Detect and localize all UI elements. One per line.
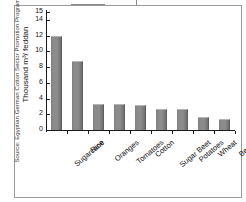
y-tick: 10	[46, 51, 50, 52]
y-tick: 2	[46, 114, 50, 115]
y-tick-mark	[46, 12, 50, 13]
y-tick: 4	[46, 99, 50, 100]
source-note: Source: Egyptian German Cotton Sector Pr…	[14, 13, 21, 163]
bar	[114, 104, 125, 130]
y-tick-label: 6	[39, 78, 43, 86]
y-tick: 0	[46, 130, 50, 131]
bar	[198, 117, 209, 130]
y-axis-title: Thousand m³/ feddan	[21, 17, 30, 113]
bar	[177, 109, 188, 130]
y-tick-mark	[46, 114, 50, 115]
y-tick: 6	[46, 83, 50, 84]
y-tick: 8	[46, 67, 50, 68]
x-tick	[109, 131, 110, 134]
y-tick-mark	[46, 36, 50, 37]
bar	[135, 105, 146, 130]
x-tick	[88, 131, 89, 134]
y-tick-mark	[46, 67, 50, 68]
x-tick	[130, 131, 131, 134]
y-tick-mark	[46, 83, 50, 84]
y-tick-label: 4	[39, 94, 43, 102]
y-tick: 12	[46, 36, 50, 37]
y-tick: 14	[46, 20, 50, 21]
chart-figure: Source: Egyptian German Cotton Sector Pr…	[0, 0, 246, 202]
x-tick	[172, 131, 173, 134]
y-tick-label: 14	[35, 15, 43, 23]
x-tick	[67, 131, 68, 134]
y-tick-mark	[46, 99, 50, 100]
x-tick	[214, 131, 215, 134]
bar	[51, 36, 62, 130]
y-tick-mark	[46, 20, 50, 21]
x-tick	[193, 131, 194, 134]
y-tick-label: 10	[35, 46, 43, 54]
bar	[72, 61, 83, 130]
y-tick-mark	[46, 51, 50, 52]
x-axis-line	[46, 130, 235, 131]
bar	[219, 119, 230, 130]
y-tick-label: 12	[35, 31, 43, 39]
y-tick-label: 2	[39, 109, 43, 117]
bar	[93, 104, 104, 130]
y-tick-label: 0	[39, 125, 43, 133]
x-tick	[151, 131, 152, 134]
y-tick-label: 8	[39, 62, 43, 70]
chart-frame	[14, 5, 242, 198]
y-tick-mark	[46, 130, 50, 131]
y-tick-label: 15	[35, 7, 43, 15]
y-tick: 15	[46, 12, 50, 13]
x-tick	[235, 131, 236, 134]
bar	[156, 109, 167, 130]
